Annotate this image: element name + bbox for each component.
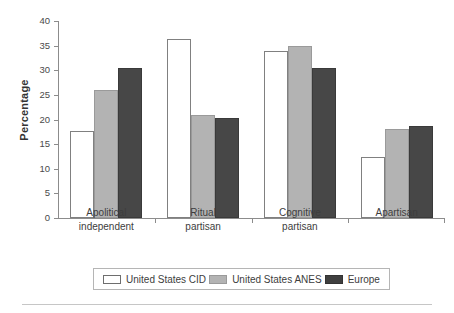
x-axis-label-line: Apartisan <box>348 206 445 220</box>
bar-eu-group-3 <box>312 68 336 218</box>
legend-swatch-icon <box>103 275 121 284</box>
legend-label: United States CID <box>126 274 206 285</box>
chart-figure: Percentage 0510152025303540 Apoliticalin… <box>0 0 454 313</box>
y-axis-tick-mark <box>54 70 58 71</box>
x-axis-label-1: Apoliticalindependent <box>58 206 155 234</box>
bar-eu-group-4 <box>409 126 433 218</box>
y-axis-tick-mark <box>54 169 58 170</box>
y-axis-tick-label: 15 <box>18 139 50 149</box>
legend-items: United States CIDUnited States ANESEurop… <box>94 269 389 289</box>
legend-swatch-icon <box>209 275 227 284</box>
y-axis-tick-label: 30 <box>18 65 50 75</box>
bar-cid-group-2 <box>167 39 191 218</box>
bar-anes-group-2 <box>191 115 215 218</box>
y-axis-tick-label: 5 <box>18 188 50 198</box>
legend-label: Europe <box>348 274 380 285</box>
y-axis-tick-mark <box>54 120 58 121</box>
legend-item-cid[interactable]: United States CID <box>103 274 206 285</box>
legend-item-eu[interactable]: Europe <box>325 274 380 285</box>
x-axis-label-line: partisan <box>252 220 349 234</box>
x-axis-label-4: Apartisan <box>348 206 445 220</box>
y-axis-line <box>58 21 59 219</box>
footer-divider <box>22 304 432 305</box>
y-axis-tick-mark <box>54 21 58 22</box>
y-axis-tick-label: 25 <box>18 90 50 100</box>
y-axis-tick-mark <box>54 46 58 47</box>
legend-item-anes[interactable]: United States ANES <box>209 274 322 285</box>
y-axis-tick-label: 0 <box>18 213 50 223</box>
bar-anes-group-3 <box>288 46 312 218</box>
x-axis-label-2: Ritualpartisan <box>155 206 252 234</box>
x-axis-label-line: partisan <box>155 220 252 234</box>
y-axis-tick-label: 40 <box>18 16 50 26</box>
x-axis-label-line: Cognitive <box>252 206 349 220</box>
bar-cid-group-3 <box>264 51 288 218</box>
x-axis-label-3: Cognitivepartisan <box>252 206 349 234</box>
bar-cid-group-1 <box>70 131 94 218</box>
y-axis-tick-label: 35 <box>18 41 50 51</box>
y-axis-tick-label: 10 <box>18 164 50 174</box>
plot-area: 0510152025303540 <box>58 21 445 218</box>
x-axis-label-line: independent <box>58 220 155 234</box>
y-axis-tick-mark <box>54 144 58 145</box>
legend-swatch-icon <box>325 275 343 284</box>
x-axis-label-line: Apolitical <box>58 206 155 220</box>
x-axis-label-line: Ritual <box>155 206 252 220</box>
bar-anes-group-4 <box>385 129 409 218</box>
bar-eu-group-1 <box>118 68 142 218</box>
bar-eu-group-2 <box>215 118 239 218</box>
y-axis-tick-mark <box>54 95 58 96</box>
legend: United States CIDUnited States ANESEurop… <box>93 268 390 290</box>
y-axis-tick-label: 20 <box>18 115 50 125</box>
legend-label: United States ANES <box>232 274 322 285</box>
bar-anes-group-1 <box>94 90 118 218</box>
y-axis-tick-mark <box>54 193 58 194</box>
